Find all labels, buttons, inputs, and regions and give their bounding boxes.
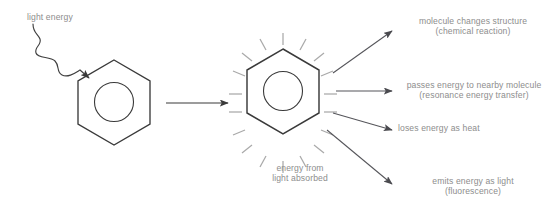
diagram-canvas: light energy energy from light absorbed … (0, 0, 552, 211)
outcome-label-chemical-reaction: molecule changes structure (chemical rea… (398, 16, 548, 37)
outcome-label-resonance-energy-transfer: passes energy to nearby molecule (resona… (398, 80, 550, 101)
outcome-label-heat: loses energy as heat (398, 123, 548, 133)
outcome-arrow-1 (333, 31, 392, 73)
light-energy-wave-arrow (33, 24, 89, 78)
energy-absorbed-caption: energy from light absorbed (245, 163, 355, 184)
outcome-arrows (327, 31, 392, 184)
ground-state-molecule (78, 60, 150, 145)
excitation-rays (229, 33, 337, 173)
outcome-arrow-3 (333, 113, 392, 130)
excited-state-molecule (247, 49, 319, 134)
light-energy-label: light energy (27, 12, 73, 22)
outcome-label-fluorescence: emits energy as light (fluorescence) (398, 176, 548, 197)
